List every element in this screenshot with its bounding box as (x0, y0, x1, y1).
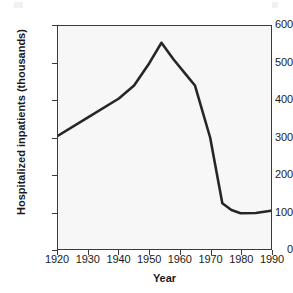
y-axis-title: Hospitalized inpatients (thousands) (15, 12, 27, 232)
page-crop-artifact-left (14, 2, 23, 8)
line-chart-canvas (58, 26, 271, 249)
plot-area (57, 25, 272, 250)
page-crop-artifact-right (272, 2, 278, 8)
x-axis-tick-label: 1990 (250, 254, 293, 265)
x-axis-title: Year (57, 272, 272, 284)
figure: Hospitalized inpatients (thousands) 0100… (0, 0, 293, 293)
data-series-line (58, 43, 271, 214)
